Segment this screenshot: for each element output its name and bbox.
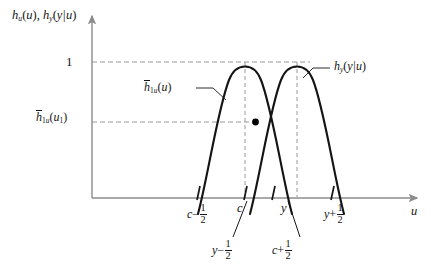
y-tick-label-one: 1 — [66, 55, 73, 68]
leader-line-c-plus-half — [288, 201, 300, 237]
x-tick-label-y-minus-half: y−12 — [212, 239, 232, 261]
y-tick-label-hbar: h1u(u1) — [36, 110, 67, 125]
figure-canvas: hu(u), hy(y|u) 1 h1u(u1) h1u(u) hy(y|u) … — [0, 0, 431, 273]
curve-label-h-y: hy(y|u) — [334, 60, 366, 74]
x-tick-label-y-plus-half: y+12 — [324, 203, 344, 225]
leader-line-left-label — [196, 88, 226, 100]
intersection-marker — [252, 119, 259, 126]
x-tick-label-c-minus-half: c−12 — [187, 203, 207, 225]
x-tick-label-c-plus-half: c+12 — [272, 239, 292, 261]
x-axis-title: u — [411, 205, 417, 218]
x-tick-label-y: y — [281, 202, 287, 215]
y-axis-title: hu(u), hy(y|u) — [12, 9, 76, 23]
x-tick-label-c: c — [237, 202, 243, 215]
plot-svg — [0, 0, 431, 273]
curve-label-h-bar-1u: h1u(u) — [144, 80, 171, 95]
